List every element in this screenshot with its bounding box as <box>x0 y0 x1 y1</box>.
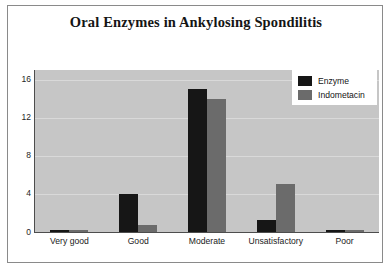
y-axis-tick-label: 12 <box>5 113 31 122</box>
y-axis-tick-label: 8 <box>5 151 31 160</box>
x-axis-tick-label: Poor <box>310 236 379 246</box>
bar <box>257 220 276 232</box>
x-axis-tick-label: Moderate <box>173 236 242 246</box>
bar-group <box>173 70 242 232</box>
x-axis-tick-label: Very good <box>35 236 104 246</box>
x-axis-line <box>35 232 379 233</box>
bar <box>138 225 157 232</box>
bar <box>188 89 207 232</box>
x-axis-tick-label: Unsatisfactory <box>241 236 310 246</box>
bar-group <box>104 70 173 232</box>
bar <box>276 184 295 232</box>
x-axis-tick-label: Good <box>104 236 173 246</box>
y-axis-tick-labels: 0481216 <box>0 0 31 269</box>
chart-figure: Oral Enzymes in Ankylosing Spondilitis 0… <box>0 0 391 269</box>
chart-legend: EnzymeIndometacin <box>292 70 377 105</box>
bar-group <box>35 70 104 232</box>
y-axis-tick-label: 16 <box>5 75 31 84</box>
legend-swatch-enzyme <box>298 76 312 86</box>
bar <box>207 99 226 232</box>
legend-swatch-indometacin <box>298 90 312 100</box>
legend-label: Enzyme <box>318 76 349 86</box>
chart-title: Oral Enzymes in Ankylosing Spondilitis <box>8 14 384 31</box>
legend-label: Indometacin <box>318 90 365 100</box>
y-axis-tick-label: 4 <box>5 189 31 198</box>
bar <box>119 194 138 232</box>
y-axis-tick-label: 0 <box>5 228 31 237</box>
